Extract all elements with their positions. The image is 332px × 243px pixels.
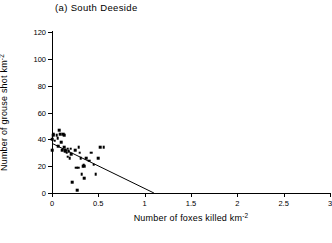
data-point xyxy=(83,177,86,180)
data-point xyxy=(94,173,97,176)
data-point xyxy=(83,165,86,168)
x-tick-label: 1 xyxy=(143,199,147,208)
y-tick-label: 80 xyxy=(38,81,46,90)
y-tick-label: 100 xyxy=(33,54,46,63)
data-point xyxy=(53,139,56,142)
data-point xyxy=(57,145,60,148)
x-axis-title-text: Number of foxes killed km xyxy=(134,213,243,223)
data-point xyxy=(99,146,102,149)
x-tick-label: 2.5 xyxy=(278,199,288,208)
data-point xyxy=(103,146,106,149)
data-point xyxy=(60,141,63,144)
data-point xyxy=(76,189,79,192)
data-point xyxy=(70,153,73,156)
data-point xyxy=(79,157,82,160)
x-tick xyxy=(284,193,285,197)
x-axis-title-superscript: -2 xyxy=(242,212,248,219)
y-tick-label: 20 xyxy=(38,162,46,171)
x-axis-title: Number of foxes killed km-2 xyxy=(52,212,330,223)
x-tick-label: 1.5 xyxy=(186,199,196,208)
y-tick xyxy=(48,86,52,87)
data-point xyxy=(90,151,93,154)
data-point xyxy=(97,157,100,160)
x-tick xyxy=(145,193,146,197)
x-tick xyxy=(191,193,192,197)
data-point xyxy=(77,166,80,169)
data-point xyxy=(51,149,54,152)
data-point xyxy=(78,146,81,149)
panel-title: (a) South Deeside xyxy=(55,2,138,13)
data-point xyxy=(58,129,61,132)
data-point xyxy=(56,137,59,140)
y-tick xyxy=(48,113,52,114)
data-point xyxy=(74,149,77,152)
y-tick xyxy=(48,166,52,167)
plot-area: 020406080100120 00.511.522.53 xyxy=(52,32,330,193)
x-tick-label: 0.5 xyxy=(93,199,103,208)
y-axis-title-superscript: -2 xyxy=(0,54,5,60)
data-point xyxy=(88,160,91,163)
x-tick-label: 3 xyxy=(328,199,332,208)
x-tick xyxy=(237,193,238,197)
data-point xyxy=(63,134,66,137)
x-tick-label: 2 xyxy=(235,199,239,208)
x-tick xyxy=(52,193,53,197)
y-tick xyxy=(48,32,52,33)
regression-line xyxy=(52,32,330,193)
x-tick-label: 0 xyxy=(50,199,54,208)
y-tick-label: 40 xyxy=(38,135,46,144)
y-tick xyxy=(48,59,52,60)
x-tick xyxy=(98,193,99,197)
y-axis-title-text: Number of grouse shot km xyxy=(0,60,9,171)
y-axis-title: Number of grouse shot km-2 xyxy=(0,32,12,193)
data-point xyxy=(68,157,71,160)
y-tick-label: 60 xyxy=(38,108,46,117)
y-tick-label: 0 xyxy=(42,189,46,198)
data-point xyxy=(79,151,82,154)
data-point xyxy=(92,164,95,167)
data-point xyxy=(71,181,74,184)
data-point xyxy=(69,147,72,150)
x-tick xyxy=(330,193,331,197)
data-point xyxy=(80,173,83,176)
y-tick-label: 120 xyxy=(33,28,46,37)
